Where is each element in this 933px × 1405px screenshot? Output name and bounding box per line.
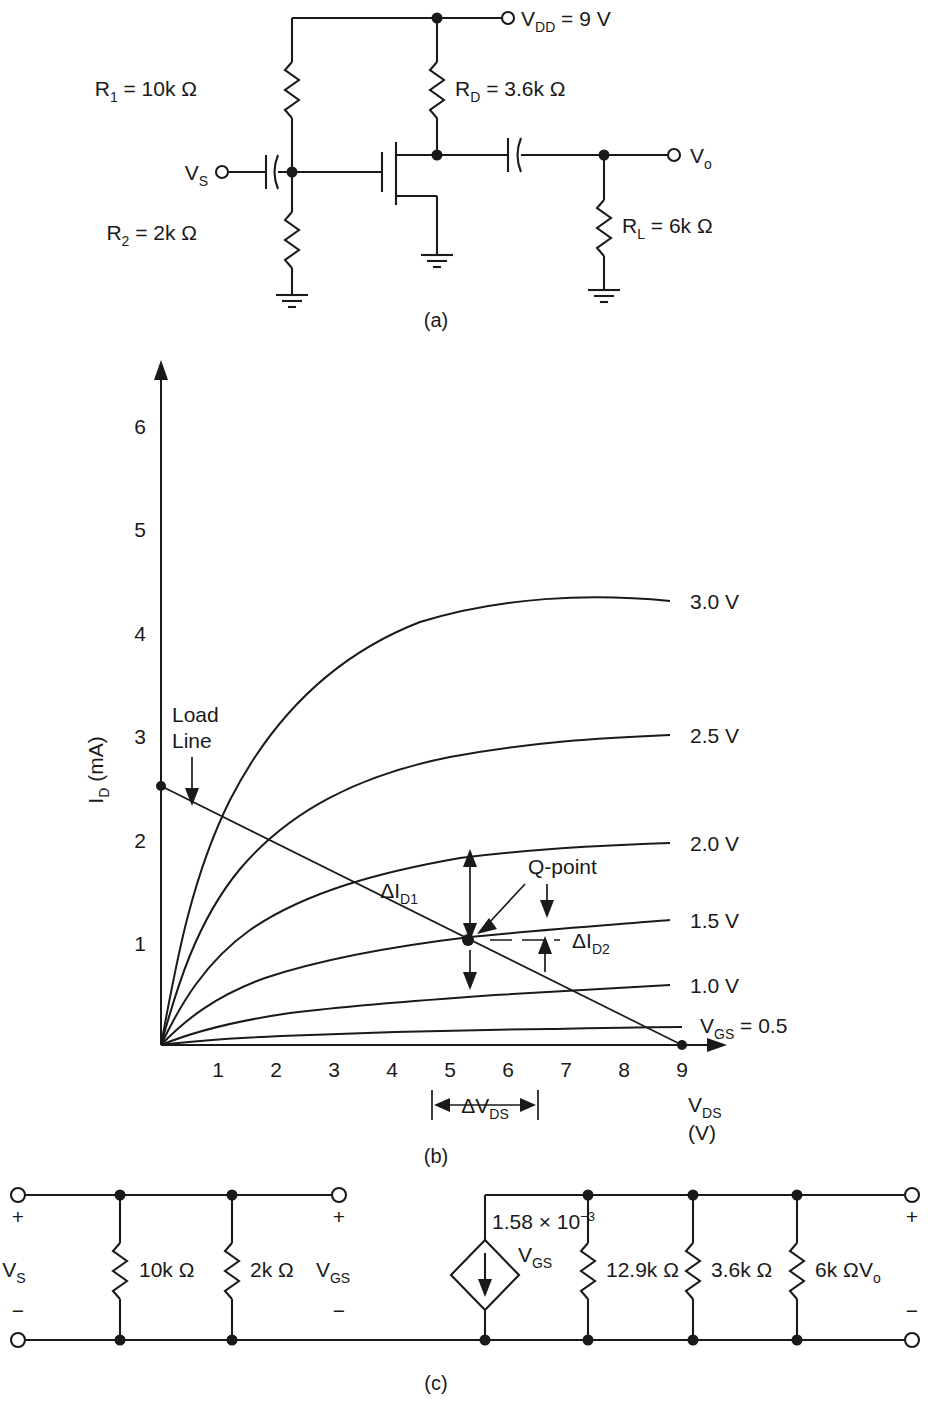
svg-text:3: 3 [134,725,146,748]
characteristic-curves [161,597,682,1045]
curve-vgs-3.0 [161,597,670,1045]
load-line-label-2: Line [172,729,212,752]
terminal-vo [668,149,680,161]
terminal-vs [216,166,228,178]
resistor-rl [597,200,611,256]
terminal-vdd [502,12,514,24]
x-tick-labels: 1 2 3 4 5 6 7 8 9 [212,1058,688,1081]
terminal-c-vs-bottom [11,1333,25,1347]
delta-id2-label: ΔID2 [572,929,610,957]
delta-id1-lower-arrow [463,950,477,990]
mosfet-transistor [318,142,437,255]
curve-label-vgs-0.5: VGS = 0.5 [700,1014,787,1042]
minus-sign-vs: − [12,1299,24,1322]
svg-text:4: 4 [386,1058,398,1081]
capacitor-input [266,155,278,189]
delta-id2-arrow [538,936,552,972]
svg-text:6: 6 [502,1058,514,1081]
svg-text:9: 9 [676,1058,688,1081]
dependent-source-coef: 1.58 × 10−3 [492,1209,595,1233]
svg-text:6: 6 [134,415,146,438]
terminal-c-vo-bottom [905,1333,919,1347]
svg-text:2: 2 [270,1058,282,1081]
q-point-label: Q-point [528,855,597,878]
svg-text:7: 7 [560,1058,572,1081]
curve-vgs-1.0 [161,985,670,1045]
load-line [161,786,682,1045]
r2-label: R2 = 2k Ω [106,221,197,249]
x-axis-title: VDS [688,1093,721,1121]
ground-rl [588,290,620,302]
minus-sign-vgs: − [333,1299,345,1322]
delta-vds-label: ΔVDS [461,1094,509,1122]
terminal-c-vgs-top [332,1188,346,1202]
plus-sign-vo: + [906,1205,918,1228]
resistor-c-6k-label: 6k Ω [815,1258,859,1281]
ground-r2 [276,295,308,307]
vgs-label-c: VGS [316,1258,350,1286]
vs-label-c: VS [2,1258,25,1286]
curve-vgs-0.5 [161,1027,682,1045]
svg-text:1: 1 [212,1058,224,1081]
resistor-c-3.6k-label: 3.6k Ω [711,1258,772,1281]
vdd-label: VDD = 9 V [521,7,611,35]
load-line-x-intercept-dot [677,1040,687,1050]
svg-text:5: 5 [444,1058,456,1081]
ground-source [421,255,453,267]
svg-text:3: 3 [328,1058,340,1081]
figure-root: VDD = 9 V R1 = 10k Ω RD = 3.6k Ω VS [0,0,933,1405]
resistor-c-10k [113,1243,127,1299]
y-axis-title: ID (mA) [84,736,112,803]
q-point-leader-arrow [477,884,525,934]
rl-label: RL = 6k Ω [622,214,713,242]
svg-text:4: 4 [134,622,146,645]
resistor-c-10k-label: 10k Ω [139,1258,194,1281]
vo-label-c: Vo [859,1258,881,1286]
q-point-down-arrow [540,884,554,918]
svg-text:2: 2 [134,829,146,852]
y-axis-arrowhead [154,360,168,380]
delta-id1-label: ΔID1 [380,879,418,907]
dependent-source-variable: VGS [518,1243,552,1271]
caption-a: (a) [424,309,448,331]
resistor-c-12.9k-label: 12.9k Ω [606,1258,679,1281]
curve-label-1.0v: 1.0 V [690,974,739,997]
load-line-y-intercept-dot [156,781,166,791]
resistor-c-2k [225,1243,239,1299]
plus-sign-vs: + [12,1205,24,1228]
panel-a-circuit: VDD = 9 V R1 = 10k Ω RD = 3.6k Ω VS [95,7,713,331]
panel-b-chart: 1 2 3 4 5 6 1 2 3 4 5 6 7 8 9 ID (mA) VD… [84,360,787,1167]
vs-input-label: VS [185,161,208,189]
curve-labels: 3.0 V 2.5 V 2.0 V 1.5 V 1.0 V VGS = 0.5 [690,590,787,1042]
curve-label-2.0v: 2.0 V [690,832,739,855]
r1-label: R1 = 10k Ω [95,77,197,105]
terminal-c-vo-top [905,1188,919,1202]
resistor-c-12.9k [581,1243,595,1299]
svg-text:1: 1 [134,932,146,955]
x-axis-unit: (V) [688,1121,716,1144]
curve-label-2.5v: 2.5 V [690,724,739,747]
vo-output-label: Vo [690,144,712,172]
capacitor-output [508,138,521,172]
terminal-c-vs-top [11,1188,25,1202]
caption-c: (c) [424,1372,447,1394]
curve-label-1.5v: 1.5 V [690,909,739,932]
panel-c-circuit: + − VS 10k Ω 2k Ω + − VGS [2,1188,919,1394]
svg-text:5: 5 [134,518,146,541]
resistor-c-6k [790,1243,804,1299]
caption-b: (b) [424,1145,448,1167]
curve-vgs-2.5 [161,735,670,1045]
resistor-c-2k-label: 2k Ω [250,1258,294,1281]
delta-id1-arrow [463,849,477,941]
y-tick-labels: 1 2 3 4 5 6 [134,415,146,955]
curve-label-3.0v: 3.0 V [690,590,739,613]
resistor-rd [430,62,444,118]
rd-label: RD = 3.6k Ω [455,77,565,105]
resistor-r2 [285,212,299,268]
minus-sign-vo: − [906,1299,918,1322]
svg-text:8: 8 [618,1058,630,1081]
plus-sign-vgs: + [333,1205,345,1228]
resistor-r1 [285,62,299,118]
node-src-bottom [480,1335,491,1346]
load-line-label-1: Load [172,703,219,726]
